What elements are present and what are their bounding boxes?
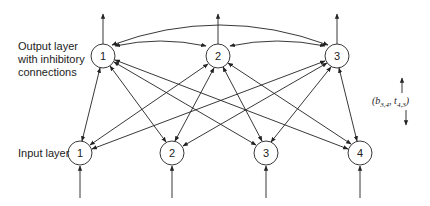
feedforward-connections bbox=[82, 60, 357, 149]
input-node-3-label: 3 bbox=[263, 147, 269, 159]
lateral-2-3 bbox=[230, 41, 325, 46]
param-b-sub: 3,4 bbox=[380, 101, 389, 109]
input-node-2-label: 2 bbox=[169, 147, 175, 159]
output-layer-line2: with inhibitory bbox=[18, 53, 85, 66]
input-node-4-label: 4 bbox=[357, 147, 363, 159]
parameter-label: (b3,4, t4,3) bbox=[372, 95, 409, 109]
paren-close: ) bbox=[406, 95, 409, 106]
output-layer-line3: connections bbox=[18, 66, 85, 79]
output-node-3-label: 3 bbox=[334, 50, 340, 62]
network-diagram: 1 2 3 1 2 3 4 bbox=[0, 0, 430, 206]
param-t-sub: 4,3 bbox=[397, 101, 406, 109]
input-layer-label: Input layer bbox=[18, 147, 69, 160]
output-node-2-label: 2 bbox=[215, 50, 221, 62]
output-layer-label: Output layer with inhibitory connections bbox=[18, 40, 85, 79]
input-node-1-label: 1 bbox=[77, 147, 83, 159]
lateral-1-2 bbox=[115, 41, 206, 46]
output-node-1-label: 1 bbox=[100, 50, 106, 62]
output-layer-line1: Output layer bbox=[18, 40, 85, 53]
